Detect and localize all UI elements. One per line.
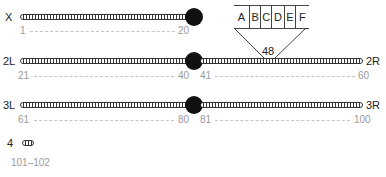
subdivision-a: A xyxy=(234,6,249,28)
chromosome-2r-label: 2R xyxy=(366,55,380,67)
range-start-3r: 81 xyxy=(200,114,211,125)
range-line-x xyxy=(30,31,175,32)
range-start-2r: 41 xyxy=(200,70,211,81)
subdivision-e: E xyxy=(284,6,295,28)
range-line-3l xyxy=(34,120,174,121)
chromosome-4-arm xyxy=(22,140,34,146)
subdivision-c: C xyxy=(260,6,271,28)
range-end-3l: 80 xyxy=(178,114,189,125)
band-subdivision-box: A B C D E F xyxy=(234,5,309,29)
range-line-2r xyxy=(215,76,355,77)
chromosome-x-arm xyxy=(20,14,190,20)
range-start-2l: 21 xyxy=(18,70,29,81)
range-line-3r xyxy=(215,120,350,121)
centromere-x xyxy=(185,8,203,26)
chromosome-4-label: 4 xyxy=(7,137,13,149)
chromosome-3l-arm xyxy=(20,102,190,108)
band-48-label: 48 xyxy=(262,45,274,57)
range-start-x: 1 xyxy=(20,25,26,36)
chromosome-3r-arm xyxy=(200,102,363,108)
subdivision-b: B xyxy=(249,6,260,28)
subdivision-d: D xyxy=(271,6,283,28)
range-line-2l xyxy=(34,76,174,77)
subdivision-f: F xyxy=(295,6,309,28)
range-start-3l: 61 xyxy=(18,114,29,125)
range-end-2l: 40 xyxy=(178,70,189,81)
chromosome-2r-arm xyxy=(200,58,363,64)
chromosome-2l-label: 2L xyxy=(3,55,15,67)
range-end-x: 20 xyxy=(178,25,189,36)
range-end-3r: 100 xyxy=(354,114,371,125)
chromosome-x-label: X xyxy=(5,11,12,23)
chromosome-3l-label: 3L xyxy=(3,99,15,111)
range-end-2r: 60 xyxy=(358,70,369,81)
range-4: 101–102 xyxy=(11,157,50,168)
chromosome-2l-arm xyxy=(20,58,190,64)
chromosome-3r-label: 3R xyxy=(366,99,380,111)
